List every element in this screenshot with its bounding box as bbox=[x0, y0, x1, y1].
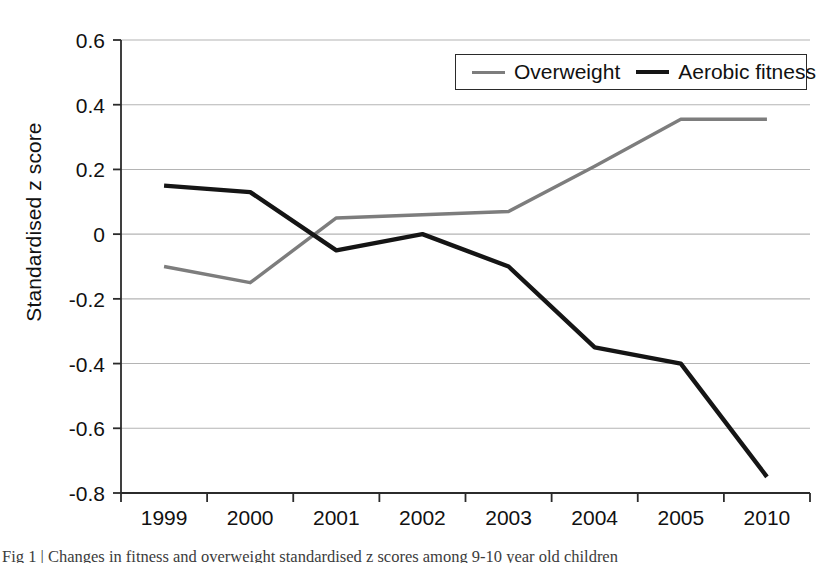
series-line-aerobic-fitness bbox=[164, 186, 767, 477]
x-tick-label-0: 1999 bbox=[121, 506, 207, 530]
x-tick-label-5: 2004 bbox=[552, 506, 638, 530]
legend-entry-overweight[interactable]: Overweight bbox=[456, 55, 620, 89]
line-swatch-icon-overweight bbox=[472, 71, 505, 74]
data-series-group bbox=[164, 119, 767, 477]
x-tick-label-6: 2005 bbox=[638, 506, 724, 530]
y-tick-label-5: -0.4 bbox=[41, 353, 105, 377]
y-tick-label-6: -0.6 bbox=[41, 417, 105, 441]
y-axis-title: Standardised z score bbox=[22, 92, 46, 352]
x-tick-label-2: 2001 bbox=[293, 506, 379, 530]
axis-line-group bbox=[121, 40, 810, 493]
legend-label-overweight: Overweight bbox=[514, 60, 620, 84]
figure-container: Standardised z score 0.60.40.20-0.2-0.4-… bbox=[0, 0, 837, 563]
x-tick-group bbox=[121, 493, 810, 502]
x-tick-label-1: 2000 bbox=[207, 506, 293, 530]
line-swatch-icon-aerobic-fitness bbox=[636, 70, 669, 74]
legend-entry-aerobic-fitness[interactable]: Aerobic fitness bbox=[620, 55, 816, 89]
y-tick-label-7: -0.8 bbox=[41, 482, 105, 506]
y-tick-label-0: 0.6 bbox=[41, 29, 105, 53]
x-tick-label-4: 2003 bbox=[466, 506, 552, 530]
y-tick-group bbox=[113, 40, 121, 493]
gridline-group bbox=[121, 40, 810, 493]
x-tick-label-7: 2010 bbox=[724, 506, 810, 530]
chart-legend: Overweight Aerobic fitness bbox=[455, 54, 807, 90]
y-tick-label-3: 0 bbox=[41, 223, 105, 247]
series-line-overweight bbox=[164, 119, 767, 282]
legend-label-aerobic-fitness: Aerobic fitness bbox=[678, 60, 816, 84]
y-tick-label-1: 0.4 bbox=[41, 94, 105, 118]
y-tick-label-4: -0.2 bbox=[41, 288, 105, 312]
figure-caption: Fig 1 | Changes in fitness and overweigh… bbox=[0, 546, 837, 563]
y-tick-label-2: 0.2 bbox=[41, 158, 105, 182]
x-tick-label-3: 2002 bbox=[379, 506, 465, 530]
